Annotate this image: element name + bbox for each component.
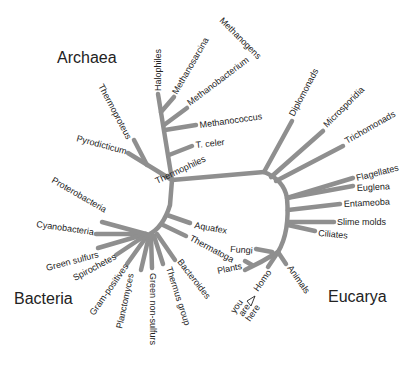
label-flagellates: Flagellates — [355, 163, 400, 183]
label-slime-molds: Slime molds — [337, 217, 387, 227]
branch-animals — [278, 252, 286, 264]
label-microsporidia: Microsporidia — [321, 84, 366, 129]
domain-label-bacteria: Bacteria — [14, 290, 73, 307]
label-thermatoga: Thermatoga — [188, 233, 236, 265]
label-ciliates: Ciliates — [318, 228, 349, 241]
label-aquafex: Aquafex — [194, 220, 229, 236]
branch-methanosarcina — [161, 97, 174, 112]
branch-entameoba — [288, 204, 340, 210]
branch-thermatoga — [163, 225, 186, 236]
eucarya-arc — [264, 172, 288, 252]
branch-plants-fork — [245, 261, 252, 265]
branch-green-non-sulfurs — [151, 236, 152, 268]
label-euglena: Euglena — [357, 181, 391, 193]
branch-t-celer — [169, 146, 192, 155]
label-diplomonads: Diplomonads — [287, 66, 321, 118]
branch-fungi — [256, 249, 272, 252]
branch-methanococcus — [165, 125, 196, 130]
label-pyrodicticum: Pyrodicticum — [75, 133, 127, 156]
label-homo: Homo — [251, 268, 273, 293]
label-thermoproteus: Thermoproteus — [96, 82, 134, 141]
label-halophiles: Halophiles — [153, 48, 163, 91]
branch-ciliates — [288, 225, 315, 231]
branch-aquafex — [167, 215, 190, 223]
label-green-non-sulfurs: Green non-sulfurs — [148, 273, 158, 346]
label-methanococcus: Methanococcus — [199, 111, 263, 130]
domain-label-archaea: Archaea — [57, 49, 117, 66]
label-t-celer: T. celer — [195, 137, 225, 150]
label-entameoba: Entameoba — [344, 197, 391, 209]
label-cyanobacteria: Cyanobacteria — [36, 219, 95, 237]
label-methanogens: Methanogens — [218, 15, 264, 61]
tree-of-life-diagram: Archaea Bacteria Eucarya Halophiles Meth… — [0, 0, 414, 367]
archaea-eucarya-link — [172, 172, 264, 180]
label-proteobacteria: Proterobacteria — [50, 175, 108, 214]
domain-label-eucarya: Eucarya — [328, 288, 387, 305]
branch-methanobacterium — [164, 108, 187, 125]
label-trichomonads: Trichomonads — [343, 108, 398, 145]
label-animals: Animals — [285, 263, 312, 295]
